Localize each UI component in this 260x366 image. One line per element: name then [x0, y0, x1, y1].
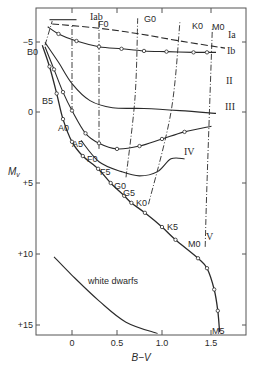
- data-point-marker: [57, 32, 60, 35]
- curve-white-dwarfs: [54, 257, 158, 334]
- data-point-marker: [130, 201, 133, 204]
- data-point-marker: [115, 147, 118, 150]
- ms-label-a5: A5: [72, 139, 83, 149]
- markers-layer: [48, 32, 220, 312]
- y-tick-label: +15: [18, 320, 33, 330]
- data-point-marker: [52, 68, 55, 71]
- class-label-ii: II: [226, 75, 233, 86]
- y-tick-label: +10: [18, 249, 33, 259]
- x-tick-label: 0.5: [111, 338, 124, 348]
- ms-label-f5: F5: [100, 167, 111, 177]
- x-tick-label: 1.5: [205, 338, 218, 348]
- data-point-marker: [160, 225, 163, 228]
- data-point-marker: [192, 51, 195, 54]
- data-point-marker: [97, 142, 100, 145]
- ms-label-g5: G5: [123, 188, 135, 198]
- curve-ii: [45, 42, 216, 113]
- class-label-ib: Ib: [227, 45, 235, 56]
- data-point-marker: [142, 49, 145, 52]
- data-point-marker: [138, 144, 141, 147]
- data-point-marker: [61, 90, 64, 93]
- ms-label-m0: M0: [188, 239, 201, 249]
- data-point-marker: [61, 117, 64, 120]
- class-label-v: V: [206, 231, 214, 242]
- isoline-b0: [45, 21, 52, 45]
- data-point-marker: [81, 154, 84, 157]
- data-point-marker: [165, 50, 168, 53]
- ms-label-b5: B5: [42, 96, 53, 106]
- curve-iii: [45, 47, 212, 149]
- data-point-marker: [143, 211, 146, 214]
- ms-label-k0: K0: [136, 198, 147, 208]
- x-tick-label: 1.0: [156, 338, 169, 348]
- data-point-marker: [120, 47, 123, 50]
- x-axis-label: B−V: [131, 352, 152, 363]
- plot-frame: [36, 8, 246, 335]
- data-point-marker: [55, 92, 58, 95]
- ms-label-b0: B0: [27, 47, 38, 57]
- ms-label-m5: M5: [212, 326, 225, 336]
- data-point-marker: [97, 45, 100, 48]
- y-ticks: [36, 42, 246, 325]
- ms-label-k5: K5: [167, 222, 178, 232]
- data-point-marker: [109, 181, 112, 184]
- class-label-iv: IV: [184, 146, 195, 157]
- isoline-g0: [126, 18, 138, 177]
- data-point-marker: [205, 267, 208, 270]
- spectral-label-f0-top: F0: [98, 19, 109, 29]
- data-point-marker: [75, 39, 78, 42]
- ms-label-f0: F0: [87, 154, 98, 164]
- curve-ib: [48, 27, 216, 53]
- x-tick-label: 0: [69, 338, 74, 348]
- data-point-marker: [213, 288, 216, 291]
- data-point-marker: [70, 109, 73, 112]
- spectral-label-g0-top: G0: [144, 14, 156, 24]
- ms-label-a0: A0: [58, 123, 69, 133]
- data-point-marker: [160, 137, 163, 140]
- hr-diagram: 0 0.5 1.0 1.5 B−V −5 0 +5 +10 +15 Mv Iab…: [0, 0, 260, 366]
- class-label-ia: Ia: [228, 29, 236, 40]
- y-tick-label: 0: [28, 107, 33, 117]
- data-point-marker: [216, 309, 219, 312]
- data-point-marker: [205, 51, 208, 54]
- curves-layer: [42, 20, 225, 334]
- data-point-marker: [174, 238, 177, 241]
- isoline-m0: [205, 27, 212, 247]
- spectral-label-m0-top: M0: [212, 22, 225, 32]
- isoline-k0: [149, 21, 181, 204]
- data-point-marker: [84, 132, 87, 135]
- data-point-marker: [183, 130, 186, 133]
- spectral-label-k0-top: K0: [192, 21, 203, 31]
- white-dwarfs-label: white dwarfs: [87, 276, 139, 286]
- y-axis-label: Mv: [8, 166, 20, 178]
- class-label-iii: III: [225, 101, 235, 112]
- y-tick-label: +5: [23, 178, 33, 188]
- y-tick-label: −5: [23, 37, 33, 47]
- data-point-marker: [48, 65, 51, 68]
- data-point-marker: [196, 257, 199, 260]
